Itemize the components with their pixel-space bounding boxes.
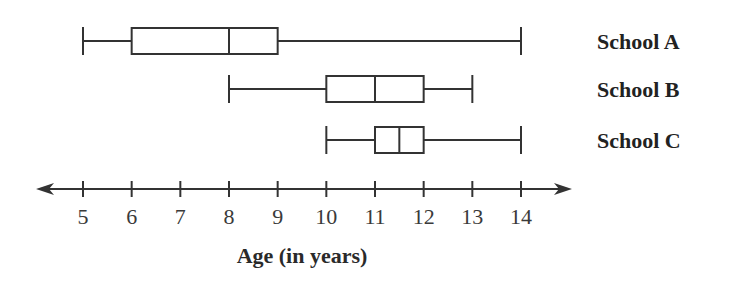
tick-label: 10	[315, 204, 337, 229]
box-plot-school-c	[326, 126, 521, 154]
x-axis-title: Age (in years)	[237, 243, 368, 268]
x-axis: 567891011121314	[36, 181, 572, 229]
series-label-school-b: School B	[597, 77, 680, 102]
series-label-school-a: School A	[597, 29, 680, 54]
tick-label: 14	[510, 204, 532, 229]
box-plots	[83, 27, 521, 154]
tick-label: 7	[175, 204, 186, 229]
iqr-box	[132, 28, 278, 54]
tick-label: 11	[364, 204, 385, 229]
tick-label: 9	[272, 204, 283, 229]
tick-label: 8	[224, 204, 235, 229]
box-plot-school-a	[83, 27, 521, 55]
tick-label: 6	[126, 204, 137, 229]
series-label-school-c: School C	[597, 128, 681, 153]
tick-label: 13	[461, 204, 483, 229]
tick-label: 5	[78, 204, 89, 229]
tick-label: 12	[413, 204, 435, 229]
series-labels: School ASchool BSchool C	[597, 29, 681, 153]
box-plot-chart: School ASchool BSchool C 567891011121314…	[0, 0, 729, 281]
box-plot-school-b	[229, 75, 472, 103]
